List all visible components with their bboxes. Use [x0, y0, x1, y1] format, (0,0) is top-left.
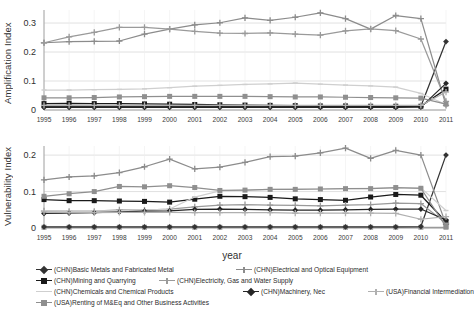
- legend-marker-line-icon: [36, 287, 52, 296]
- legend-item[interactable]: (CHN)Chemicals and Chemical Products: [36, 286, 173, 297]
- amplification-x-tick-labels: 1995199619971998199920002001200220032004…: [40, 116, 450, 128]
- x-tick-label: 2002: [213, 234, 228, 241]
- legend-label: (CHN)Electrical and Optical Equipment: [254, 264, 368, 275]
- legend-marker-plus-icon: [236, 265, 252, 274]
- x-tick-label: 2004: [263, 234, 278, 241]
- legend-item[interactable]: (CHN)Mining and Quarrying: [36, 275, 136, 286]
- legend-item[interactable]: (USA)Financial Intermediation: [368, 286, 474, 297]
- chart-legend: (CHN)Basic Metals and Fabricated Metal(C…: [36, 264, 464, 312]
- legend-label: (CHN)Electricity, Gas and Water Supply: [177, 275, 293, 286]
- x-tick-label: 2006: [313, 116, 328, 123]
- x-tick-label: 2011: [439, 116, 453, 123]
- legend-label: (CHN)Basic Metals and Fabricated Metal: [54, 264, 174, 275]
- x-tick-label: 2001: [187, 234, 202, 241]
- x-tick-label: 2000: [162, 234, 177, 241]
- x-tick-label: 2011: [439, 234, 453, 241]
- x-tick-label: 2010: [414, 234, 429, 241]
- legend-marker-plus-icon: [159, 276, 175, 285]
- legend-label: (CHN)Chemicals and Chemical Products: [54, 286, 173, 297]
- x-tick-label: 1995: [37, 116, 52, 123]
- x-tick-label: 1997: [87, 116, 102, 123]
- vulnerability-plot-area: 00.10.2: [40, 142, 450, 232]
- x-tick-label: 2009: [388, 234, 403, 241]
- y-tick-label: 0.2: [23, 150, 36, 160]
- vulnerability-x-tick-labels: 1995199619971998199920002001200220032004…: [40, 234, 450, 246]
- legend-row: (CHN)Chemicals and Chemical Products(CHN…: [36, 286, 464, 297]
- legend-item[interactable]: (CHN)Electrical and Optical Equipment: [236, 264, 368, 275]
- legend-label: (CHN)Mining and Quarrying: [54, 275, 136, 286]
- vulnerability-panel: Vulnerability Index 00.10.2 199519961997…: [0, 136, 464, 254]
- y-tick-label: 0.3: [23, 18, 36, 28]
- x-tick-label: 2006: [313, 234, 328, 241]
- legend-label: (USA)Financial Intermediation: [386, 286, 474, 297]
- legend-marker-square-icon: [36, 298, 52, 307]
- x-tick-label: 2002: [213, 116, 228, 123]
- y-tick-label: 0: [31, 105, 36, 115]
- legend-item[interactable]: (CHN)Machinery, Nec: [243, 286, 325, 297]
- amplification-axis-label: Amplification Index: [2, 4, 18, 122]
- x-tick-label: 1996: [62, 234, 77, 241]
- legend-row: (CHN)Basic Metals and Fabricated Metal(C…: [36, 264, 464, 275]
- x-tick-label: 2007: [338, 234, 353, 241]
- legend-label: (USA)Renting of M&Eq and Other Business …: [54, 297, 209, 308]
- x-tick-label: 2003: [238, 116, 253, 123]
- amplification-plot-area: 00.10.20.3: [40, 6, 450, 114]
- vulnerability-axis-label: Vulnerability Index: [2, 138, 18, 234]
- x-tick-label: 2007: [338, 116, 353, 123]
- x-tick-label: 2001: [187, 116, 202, 123]
- x-tick-label: 2005: [288, 116, 303, 123]
- y-tick-label: 0: [31, 223, 36, 233]
- y-tick-label: 0.1: [23, 187, 36, 197]
- x-tick-label: 1999: [137, 234, 152, 241]
- x-tick-label: 1998: [112, 234, 127, 241]
- x-tick-label: 2000: [162, 116, 177, 123]
- x-tick-label: 1999: [137, 116, 152, 123]
- legend-marker-square-icon: [36, 276, 52, 285]
- x-tick-label: 2009: [388, 116, 403, 123]
- x-tick-label: 1997: [87, 234, 102, 241]
- legend-marker-plus-icon: [368, 287, 384, 296]
- legend-item[interactable]: (CHN)Electricity, Gas and Water Supply: [159, 275, 293, 286]
- x-tick-label: 1995: [37, 234, 52, 241]
- x-tick-label: 2004: [263, 116, 278, 123]
- y-tick-label: 0.1: [23, 76, 36, 86]
- legend-row: (USA)Renting of M&Eq and Other Business …: [36, 297, 464, 308]
- amplification-panel: Amplification Index 00.10.20.3 199519961…: [0, 0, 464, 136]
- plot-bot-svg: [40, 142, 450, 232]
- legend-marker-diamond-icon: [36, 265, 52, 274]
- legend-row: (CHN)Mining and Quarrying(CHN)Electricit…: [36, 275, 464, 286]
- x-tick-label: 2008: [363, 116, 378, 123]
- x-tick-label: 2003: [238, 234, 253, 241]
- legend-item[interactable]: (USA)Renting of M&Eq and Other Business …: [36, 297, 209, 308]
- legend-marker-diamond-icon: [243, 287, 259, 296]
- x-tick-label: 1998: [112, 116, 127, 123]
- legend-label: (CHN)Machinery, Nec: [261, 286, 325, 297]
- x-tick-label: 2008: [363, 234, 378, 241]
- plot-top-svg: [40, 6, 450, 114]
- y-tick-label: 0.2: [23, 47, 36, 57]
- x-tick-label: 1996: [62, 116, 77, 123]
- x-axis-title: year: [0, 250, 464, 261]
- legend-item[interactable]: (CHN)Basic Metals and Fabricated Metal: [36, 264, 174, 275]
- x-tick-label: 2005: [288, 234, 303, 241]
- x-tick-label: 2010: [414, 116, 429, 123]
